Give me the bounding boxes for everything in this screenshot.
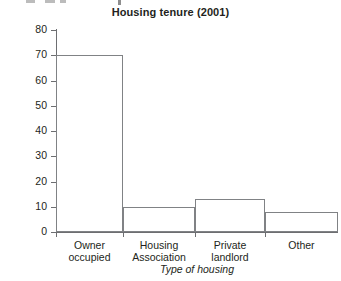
bar-owner-occupied xyxy=(56,55,123,232)
x-tick-2 xyxy=(195,232,196,237)
y-tick-80: 80 xyxy=(51,30,56,31)
x-label-housing-association: Housing Association xyxy=(121,240,197,263)
x-label-line-2: Association xyxy=(121,252,197,264)
chart-title: Housing tenure (2001) xyxy=(0,6,341,18)
bar-private-landlord xyxy=(195,199,265,232)
x-label-line-1: Owner xyxy=(56,240,123,252)
x-label-line-1: Other xyxy=(265,240,338,252)
bar-other xyxy=(265,212,338,232)
x-label-line-2: landlord xyxy=(195,252,265,264)
clipped-text-artifact xyxy=(0,0,341,5)
x-label-line-2: occupied xyxy=(56,252,123,264)
y-tick-label-40: 40 xyxy=(35,124,47,137)
x-axis-line xyxy=(56,232,338,233)
x-label-other: Other xyxy=(265,240,338,252)
y-tick-label-80: 80 xyxy=(35,23,47,36)
x-tick-0 xyxy=(56,232,57,237)
x-label-line-1: Housing xyxy=(121,240,197,252)
y-tick-label-10: 10 xyxy=(35,200,47,213)
y-tick-label-20: 20 xyxy=(35,175,47,188)
x-tick-1 xyxy=(123,232,124,237)
x-label-owner-occupied: Owner occupied xyxy=(56,240,123,263)
x-label-line-1: Private xyxy=(195,240,265,252)
y-tick-label-70: 70 xyxy=(35,48,47,61)
y-tick-label-0: 0 xyxy=(41,225,47,238)
y-tick-label-60: 60 xyxy=(35,74,47,87)
y-tick-label-30: 30 xyxy=(35,149,47,162)
y-tick-label-50: 50 xyxy=(35,99,47,112)
plot-area: 0 10 20 30 40 50 60 70 80 xyxy=(56,30,338,232)
x-label-private-landlord: Private landlord xyxy=(195,240,265,263)
x-tick-3 xyxy=(265,232,266,237)
bar-housing-association xyxy=(123,207,195,232)
x-axis-title: Type of housing xyxy=(56,263,338,275)
